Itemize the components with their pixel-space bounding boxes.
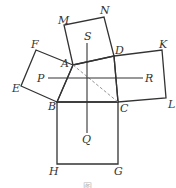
- label-M: M: [57, 14, 70, 27]
- diagonal-AC: [73, 65, 118, 102]
- label-B: B: [47, 100, 56, 113]
- label-Q: Q: [82, 133, 91, 146]
- label-P: P: [36, 72, 45, 85]
- label-N: N: [99, 4, 110, 17]
- label-D: D: [114, 44, 124, 57]
- label-S: S: [84, 30, 92, 43]
- label-H: H: [48, 165, 59, 178]
- label-E: E: [11, 82, 20, 95]
- pythagorean-figure: M N F E A S D K P R B C L Q H G 图: [0, 0, 176, 188]
- point-labels: M N F E A S D K P R B C L Q H G: [11, 4, 175, 178]
- label-C: C: [120, 102, 129, 115]
- figure-caption: 图: [83, 182, 92, 188]
- square-DKLC: [114, 50, 166, 102]
- label-A: A: [60, 57, 69, 70]
- label-G: G: [114, 165, 123, 178]
- label-R: R: [144, 72, 153, 85]
- label-K: K: [158, 38, 168, 51]
- label-F: F: [30, 38, 39, 51]
- label-L: L: [167, 98, 175, 111]
